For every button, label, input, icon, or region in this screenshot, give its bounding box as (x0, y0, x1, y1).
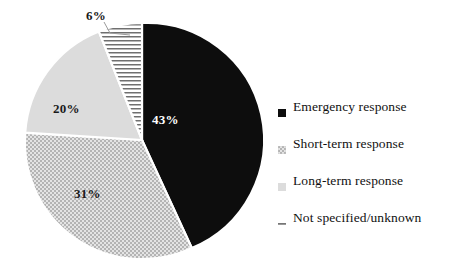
legend-swatch-light-gray-square (278, 177, 286, 185)
legend-label-not-specified-unknown: Not specified/unknown (293, 210, 421, 226)
legend-item-emergency-response: Emergency response (278, 88, 452, 125)
slice-value-label-not-specified-unknown: 6% (86, 8, 106, 24)
horizontal-stripe-dash-icon (278, 220, 286, 228)
pie-plot-area: 43% 31% 20% 6% (0, 0, 272, 272)
solid-black-square-icon (278, 109, 286, 117)
legend-item-not-specified-unknown: Not specified/unknown (278, 199, 452, 236)
pie-chart-figure: 43% 31% 20% 6% Emergency response Short-… (0, 0, 452, 272)
legend-label-emergency-response: Emergency response (293, 99, 407, 115)
legend-item-short-term-response: Short-term response (278, 125, 452, 162)
legend-swatch-checkered-square (278, 140, 286, 148)
legend-label-short-term-response: Short-term response (293, 136, 404, 152)
checkered-square-icon (278, 146, 286, 154)
legend-swatch-solid-black-square (278, 103, 286, 111)
legend-swatch-horizontal-stripe-dash (278, 214, 286, 222)
legend-label-long-term-response: Long-term response (293, 173, 403, 189)
slice-value-label-short-term-response: 31% (74, 186, 101, 202)
light-gray-square-icon (278, 183, 286, 191)
slice-value-label-long-term-response: 20% (53, 101, 80, 117)
pie-svg (0, 0, 272, 272)
slice-value-label-emergency-response: 43% (152, 112, 179, 128)
chart-legend: Emergency response Short-term response L… (278, 88, 452, 236)
legend-item-long-term-response: Long-term response (278, 162, 452, 199)
